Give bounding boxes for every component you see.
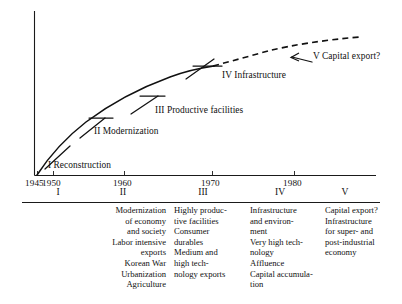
phase-entry-line: tion bbox=[259, 279, 326, 290]
phase-entry: Very high tech- nology bbox=[250, 237, 326, 258]
phase-entry-line: tive facilities bbox=[183, 216, 246, 227]
phase-entry-line: Labor intensive bbox=[98, 237, 166, 248]
phase-column-4: Infrastructure and environ- ment Very hi… bbox=[250, 205, 326, 290]
curve-label-stage-2: II Modernization bbox=[94, 126, 159, 136]
phase-entry-line: Affluence bbox=[250, 258, 284, 268]
phase-entry: Agriculture bbox=[98, 279, 166, 290]
phase-entry-line: Modernization bbox=[98, 205, 166, 216]
x-axis-ticks bbox=[38, 171, 295, 176]
phase-entry-line: Korean War bbox=[98, 258, 166, 269]
phase-entry-line: post-industrial bbox=[334, 237, 399, 248]
curve-label-stage-5: V Capital export? bbox=[313, 51, 380, 61]
phase-entry-line: durables bbox=[183, 237, 246, 248]
phase-entry-line: economy bbox=[334, 247, 399, 258]
phase-column-5: Capital export? Infrastructure for super… bbox=[325, 205, 399, 258]
phase-entry-line: and society bbox=[98, 226, 166, 237]
phase-entry-line: of economy bbox=[98, 216, 166, 227]
stage-3-pointer bbox=[131, 96, 158, 114]
phase-column-3: Highly produc- tive facilities Consumer … bbox=[174, 205, 246, 279]
phase-column-2: Modernization of economy and society Lab… bbox=[98, 205, 166, 290]
phase-entry-line: Medium and bbox=[174, 247, 218, 257]
phase-entry: Capital accumula- tion bbox=[250, 269, 326, 290]
phase-entry-line: Agriculture bbox=[98, 279, 166, 290]
development-stages-figure: 1945 1950 1960 1970 1980 I Reconstructio… bbox=[0, 0, 402, 304]
chart-area: 1945 1950 1960 1970 1980 I Reconstructio… bbox=[0, 0, 402, 192]
phase-entry-line: Consumer bbox=[174, 226, 209, 236]
phase-entry-line: and environ- bbox=[259, 216, 326, 227]
phase-entry: Infrastructure and environ- ment bbox=[250, 205, 326, 237]
phase-entry-line: Capital export? bbox=[325, 205, 378, 215]
phase-entry-line: Very high tech- bbox=[250, 237, 303, 247]
phase-entry-line: Infrastructure bbox=[250, 205, 297, 215]
phase-entry-line: exports bbox=[98, 247, 166, 258]
stage-5-arrowhead bbox=[291, 53, 299, 61]
phase-entry: Affluence bbox=[250, 258, 326, 269]
table-horizontal-rule bbox=[22, 202, 380, 203]
phase-numeral-4: IV bbox=[275, 186, 285, 197]
phase-entry-line: Infrastructure bbox=[325, 216, 372, 226]
phase-entry: Medium and high tech- nology exports bbox=[174, 247, 246, 279]
phase-entry: Modernization of economy and society bbox=[98, 205, 166, 237]
phase-entry: Infrastructure for super- and post-indus… bbox=[325, 216, 399, 258]
phase-entry: Korean War bbox=[98, 258, 166, 269]
phase-entry-line: nology exports bbox=[183, 269, 246, 280]
phase-table: I II III IV V Modernization of economy a… bbox=[0, 186, 402, 200]
phase-entry-line: Urbanization bbox=[98, 269, 166, 280]
phase-numeral-2: II bbox=[120, 186, 126, 197]
phase-entry: Highly produc- tive facilities bbox=[174, 205, 246, 226]
phase-entry: Labor intensive exports bbox=[98, 237, 166, 258]
phase-numeral-1: I bbox=[56, 186, 59, 197]
phase-entry-line: ment bbox=[259, 226, 326, 237]
phase-numeral-5: V bbox=[342, 186, 349, 197]
phase-entry-line: Highly produc- bbox=[174, 205, 227, 215]
phase-entry: Urbanization bbox=[98, 269, 166, 280]
phase-numeral-3: III bbox=[198, 186, 208, 197]
stage-4-pointer bbox=[186, 59, 214, 79]
phase-entry-line: high tech- bbox=[183, 258, 246, 269]
phase-entry-line: for super- and bbox=[334, 226, 399, 237]
phase-entry-line: Capital accumula- bbox=[250, 269, 313, 279]
curve-label-stage-1: I Reconstruction bbox=[48, 160, 111, 170]
phase-numeral-row: I II III IV V bbox=[0, 186, 402, 200]
development-curve-solid bbox=[37, 66, 214, 175]
curve-label-stage-3: III Productive facilities bbox=[155, 105, 243, 115]
phase-entry: Consumer durables bbox=[174, 226, 246, 247]
phase-entry: Capital export? bbox=[325, 205, 399, 216]
phase-entry-line: nology bbox=[259, 247, 326, 258]
curve-label-stage-4: IV Infrastructure bbox=[222, 70, 286, 80]
